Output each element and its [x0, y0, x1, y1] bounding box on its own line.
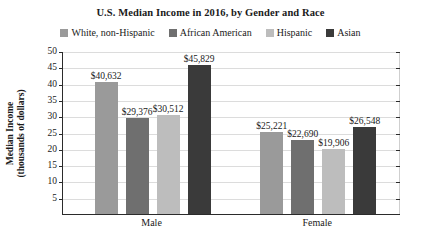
legend-swatch-icon — [326, 29, 334, 37]
y-axis-tick-label: 50 — [48, 47, 58, 57]
legend-item-0[interactable]: White, non-Hispanic — [60, 28, 154, 38]
y-axis-tick-label: 35 — [48, 96, 58, 106]
legend-label: White, non-Hispanic — [71, 28, 154, 38]
legend-label: Hispanic — [277, 28, 313, 38]
bar[interactable]: $29,376 — [126, 118, 149, 214]
chart-container: U.S. Median Income in 2016, by Gender an… — [0, 0, 421, 240]
bar-value-label: $30,512 — [153, 104, 184, 114]
bar-value-label: $22,690 — [287, 129, 318, 139]
bar-value-label: $26,548 — [349, 116, 380, 126]
y-axis-tick-label: 20 — [48, 145, 58, 155]
legend-label: Asian — [337, 28, 360, 38]
legend-swatch-icon — [169, 29, 177, 37]
y-axis-tick-right — [396, 68, 400, 69]
y-axis-tick — [59, 150, 63, 151]
x-axis-group-label: Female — [302, 217, 331, 228]
bar-value-label: $19,906 — [318, 138, 349, 148]
chart-legend: White, non-HispanicAfrican AmericanHispa… — [0, 28, 421, 38]
y-axis-tick-label: 10 — [48, 178, 58, 188]
y-axis-tick — [59, 85, 63, 86]
legend-label: African American — [180, 28, 252, 38]
bar[interactable]: $25,221 — [260, 132, 283, 214]
bar[interactable]: $40,632 — [95, 82, 118, 214]
y-axis-tick-label: 15 — [48, 161, 58, 171]
y-axis-tick-right — [396, 150, 400, 151]
plot-area: 5101520253035404550$40,632$29,376$30,512… — [62, 52, 400, 215]
y-axis-tick-label: 40 — [48, 80, 58, 90]
gridline — [63, 68, 400, 69]
y-axis-tick-right — [396, 117, 400, 118]
chart-title: U.S. Median Income in 2016, by Gender an… — [0, 7, 421, 18]
bar[interactable]: $45,829 — [188, 65, 211, 214]
bar[interactable]: $26,548 — [353, 127, 376, 214]
y-axis-tick — [59, 134, 63, 135]
legend-swatch-icon — [266, 29, 274, 37]
legend-swatch-icon — [60, 29, 68, 37]
y-axis-tick-label: 30 — [48, 112, 58, 122]
y-axis-tick-right — [396, 85, 400, 86]
bar-value-label: $25,221 — [256, 121, 287, 131]
legend-item-1[interactable]: African American — [169, 28, 252, 38]
bar[interactable]: $19,906 — [322, 149, 345, 214]
bar-value-label: $45,829 — [184, 54, 215, 64]
y-axis-tick-right — [396, 52, 400, 53]
bar-value-label: $40,632 — [91, 71, 122, 81]
y-axis-tick — [59, 68, 63, 69]
y-axis-tick-label: 45 — [48, 64, 58, 74]
y-axis-tick-right — [396, 134, 400, 135]
legend-item-2[interactable]: Hispanic — [266, 28, 313, 38]
x-axis-group-label: Male — [141, 217, 162, 228]
bar[interactable]: $30,512 — [157, 115, 180, 214]
bar-value-label: $29,376 — [122, 107, 153, 117]
gridline — [63, 52, 400, 53]
y-axis-tick-right — [396, 166, 400, 167]
y-axis-tick-label: 5 — [52, 194, 57, 204]
y-axis-title: Median Income (thousands of dollars) — [4, 52, 28, 215]
y-axis-tick-label: 25 — [48, 129, 58, 139]
bar[interactable]: $22,690 — [291, 140, 314, 214]
y-axis-tick-right — [396, 199, 400, 200]
y-axis-tick — [59, 199, 63, 200]
legend-item-3[interactable]: Asian — [326, 28, 360, 38]
y-axis-tick — [59, 101, 63, 102]
y-axis-tick — [59, 117, 63, 118]
y-axis-tick — [59, 182, 63, 183]
y-axis-tick — [59, 166, 63, 167]
y-axis-tick — [59, 52, 63, 53]
y-axis-title-line1: Median Income — [5, 89, 16, 177]
y-axis-tick-right — [396, 182, 400, 183]
y-axis-tick-right — [396, 101, 400, 102]
y-axis-title-line2: (thousands of dollars) — [16, 89, 27, 177]
